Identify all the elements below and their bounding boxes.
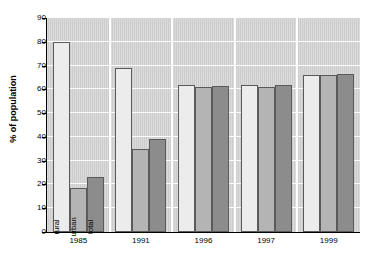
y-tick-label: 40 — [28, 133, 46, 141]
plot-area: ruralurbantotal — [47, 18, 360, 232]
x-tick-label-1997: 1997 — [236, 236, 296, 245]
x-tick-label-1991: 1991 — [111, 236, 171, 245]
bar-1999-total[interactable] — [337, 74, 354, 232]
y-tick-label: 70 — [28, 62, 46, 70]
y-tick-label: 30 — [28, 157, 46, 165]
y-tick-label: 80 — [28, 38, 46, 46]
x-tick-label-1996: 1996 — [174, 236, 234, 245]
x-axis-line — [46, 232, 360, 233]
y-tick-label: 50 — [28, 109, 46, 117]
bar-1991-total[interactable] — [149, 139, 166, 232]
x-tick-label-1985: 1985 — [48, 236, 108, 245]
bar-1999-urban[interactable] — [320, 75, 337, 232]
bar-inline-label-urban: urban — [70, 217, 78, 236]
bar-1997-rural[interactable] — [241, 85, 258, 232]
bar-1991-urban[interactable] — [132, 149, 149, 232]
bar-group-1985: ruralurbantotal — [47, 18, 110, 232]
y-tick-label: 20 — [28, 180, 46, 188]
bar-1985-urban[interactable]: urban — [70, 188, 87, 232]
bar-group-1999 — [297, 18, 360, 232]
y-tick-label: 90 — [28, 14, 46, 22]
bar-1996-urban[interactable] — [195, 87, 212, 232]
y-tick-label: 10 — [28, 204, 46, 212]
y-axis-title: % of population — [8, 59, 18, 159]
bar-1996-total[interactable] — [212, 86, 229, 232]
bar-group-1991 — [110, 18, 173, 232]
y-axis-line — [46, 18, 47, 233]
bar-chart: ruralurbantotal % of population 01020304… — [0, 0, 377, 265]
y-tick-label: 60 — [28, 85, 46, 93]
bar-1991-rural[interactable] — [115, 68, 132, 232]
bar-1997-urban[interactable] — [258, 87, 275, 232]
bar-1985-total[interactable]: total — [87, 177, 104, 232]
bar-group-1997 — [235, 18, 298, 232]
bar-1997-total[interactable] — [275, 85, 292, 232]
bar-group-1996 — [172, 18, 235, 232]
y-tick-label: 0 — [28, 228, 46, 236]
x-tick-label-1999: 1999 — [299, 236, 359, 245]
bar-1985-rural[interactable]: rural — [53, 42, 70, 232]
bar-1996-rural[interactable] — [178, 85, 195, 232]
bar-1999-rural[interactable] — [303, 75, 320, 232]
